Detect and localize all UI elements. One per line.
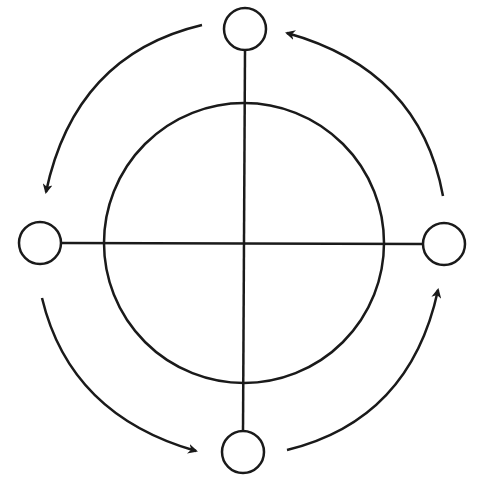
horizontal-axis — [61, 243, 423, 244]
arrow-left-to-bottom — [42, 298, 196, 451]
node-right — [423, 223, 465, 265]
diagram-root — [19, 8, 465, 473]
vertical-axis — [243, 50, 245, 431]
arrow-top-to-left — [46, 25, 202, 192]
arrow-bottom-to-right — [287, 290, 438, 450]
node-bottom — [222, 431, 264, 473]
cycle-diagram — [0, 0, 479, 479]
node-top — [224, 8, 266, 50]
node-left — [19, 222, 61, 264]
